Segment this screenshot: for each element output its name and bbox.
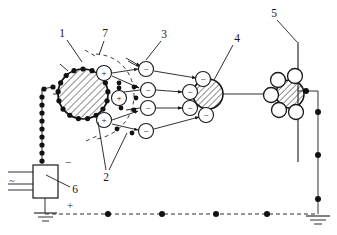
conductor-node-dot xyxy=(315,152,321,158)
conductor-node-dot xyxy=(315,196,321,202)
ground-bus xyxy=(45,211,318,217)
callout-leader-1 xyxy=(67,40,82,62)
free-charge-dot xyxy=(117,86,122,91)
callout-label-1: 1 xyxy=(59,27,65,39)
negative-terminal-mark: − xyxy=(65,156,71,168)
bead-dot xyxy=(39,150,44,155)
drum-perimeter-dot xyxy=(64,73,69,78)
drum-perimeter-dot xyxy=(56,98,61,103)
bead-dot xyxy=(39,94,44,99)
drum-perimeter-dot xyxy=(67,113,72,118)
free-charge-dot xyxy=(130,131,135,136)
callout-label-3: 3 xyxy=(161,28,167,40)
drum-perimeter-dot xyxy=(76,116,81,121)
callout-leader-2 xyxy=(109,133,127,170)
callout-label-2: 2 xyxy=(103,171,109,183)
ground-bus-dot xyxy=(105,211,111,217)
drum-perimeter-dot xyxy=(60,106,65,111)
conductor-node-dot xyxy=(315,109,321,115)
drum-perimeter-dot xyxy=(100,106,105,111)
positive-ion: + xyxy=(112,91,127,106)
drum-perimeter-dot xyxy=(105,89,110,94)
drum-perimeter-dot xyxy=(89,68,94,73)
negative-ion-on-collector: − xyxy=(183,101,198,116)
free-charge-dot xyxy=(132,85,137,90)
negative-ion-on-collector: − xyxy=(199,108,214,123)
callout-label-5: 5 xyxy=(271,7,277,19)
negative-ion-symbol: − xyxy=(143,64,148,74)
negative-ion: − xyxy=(141,83,156,98)
negative-ion: − xyxy=(139,124,154,139)
bead-dot xyxy=(39,142,44,147)
callout-label-6: 6 xyxy=(72,183,78,195)
negative-ion-symbol: − xyxy=(145,103,150,113)
callout-label-4: 4 xyxy=(234,32,240,44)
drum-perimeter-dot xyxy=(58,80,63,85)
free-charge-dot xyxy=(117,81,122,86)
negative-ion-on-collector-symbol: − xyxy=(187,103,192,113)
negative-ion-on-collector-symbol: − xyxy=(187,87,192,97)
free-charge-dot xyxy=(115,127,120,132)
bead-dot xyxy=(39,118,44,123)
neutral-circle xyxy=(288,69,303,84)
callout-leader-5 xyxy=(277,20,297,42)
drum-perimeter-dot xyxy=(85,116,90,121)
ground-bus-dot xyxy=(213,211,219,217)
drum-perimeter-dot xyxy=(80,66,85,71)
drum-perimeter-dot xyxy=(103,80,108,85)
negative-ion-on-collector: − xyxy=(196,72,211,87)
negative-ion-on-collector-symbol: − xyxy=(200,74,205,84)
high-voltage-power-supply xyxy=(8,165,58,221)
schematic-canvas: +++ −−−− −−−− 1234567 −+~ xyxy=(0,0,337,235)
neutral-circle xyxy=(271,73,286,88)
negative-ion-symbol: − xyxy=(143,126,148,136)
negative-ion-on-collector-symbol: − xyxy=(203,110,208,120)
positive-ion-symbol: + xyxy=(101,68,106,78)
bead-dot xyxy=(39,102,44,107)
schematic-diagram: +++ −−−− −−−− 1234567 −+~ xyxy=(0,0,337,235)
bead-dot xyxy=(39,134,44,139)
positive-ion: + xyxy=(97,66,112,81)
neutral-circle xyxy=(289,105,304,120)
bead-dot xyxy=(50,84,55,89)
free-charge-dot xyxy=(132,108,137,113)
callout-label-7: 7 xyxy=(102,27,108,39)
ground-bus-dot xyxy=(264,211,270,217)
bead-dot xyxy=(39,110,44,115)
neutral-circle xyxy=(264,88,279,103)
bead-dot xyxy=(39,158,44,163)
negative-ion: − xyxy=(139,62,154,77)
negative-ion-symbol: − xyxy=(145,85,150,95)
plate-ground-symbol xyxy=(306,216,330,224)
beaded-high-voltage-lead xyxy=(39,84,55,164)
negative-ion-column: −−−− xyxy=(139,62,156,139)
positive-terminal-mark: + xyxy=(67,199,73,211)
ground-bus-dot xyxy=(159,211,165,217)
free-charge-dot xyxy=(134,96,139,101)
bead-dot xyxy=(39,126,44,131)
positive-ion-symbol: + xyxy=(116,93,121,103)
positive-ion-symbol: + xyxy=(101,115,106,125)
neutral-circle xyxy=(272,103,287,118)
drum-perimeter-dot xyxy=(104,98,109,103)
negative-ion-on-collector: − xyxy=(183,85,198,100)
callout-leader-4 xyxy=(214,45,233,80)
callout-leader-2 xyxy=(98,122,106,170)
bead-dot xyxy=(41,86,46,91)
drum-perimeter-dot xyxy=(56,89,61,94)
callout-leader-3 xyxy=(146,41,161,60)
drum-perimeter-dot xyxy=(71,68,76,73)
ac-input-mark: ~ xyxy=(9,175,15,186)
free-charge-dot xyxy=(119,106,124,111)
callout-leader-7 xyxy=(99,41,104,55)
negative-ion: − xyxy=(141,101,156,116)
